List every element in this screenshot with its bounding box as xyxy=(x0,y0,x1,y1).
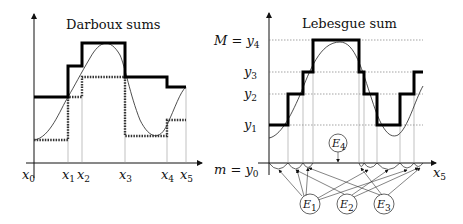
diagram-canvas: Darboux sums x0 x1 x2 x3 x4 x5 Lebesgue xyxy=(0,0,463,224)
svg-text:m = y0: m = y0 xyxy=(214,162,259,179)
svg-text:x1: x1 xyxy=(62,167,75,184)
right-y-labels: M = y4 y3 y2 y1 m = y0 x5 xyxy=(213,33,446,182)
left-x-labels: x0 x1 x2 x3 x4 x5 xyxy=(22,167,193,184)
interval-arcs xyxy=(269,163,423,170)
lebesgue-title: Lebesgue sum xyxy=(302,16,397,31)
darboux-title: Darboux sums xyxy=(66,17,160,32)
darboux-panel: Darboux sums x0 x1 x2 x3 x4 x5 xyxy=(22,14,202,184)
diagram: Darboux sums x0 x1 x2 x3 x4 x5 Lebesgue xyxy=(0,0,463,224)
svg-text:M = y4: M = y4 xyxy=(213,33,260,50)
right-guides xyxy=(288,40,414,163)
svg-text:x0: x0 xyxy=(22,167,35,184)
function-curve xyxy=(34,43,186,140)
svg-text:y2: y2 xyxy=(243,86,257,103)
lower-darboux-sum xyxy=(34,77,186,140)
svg-text:x4: x4 xyxy=(161,167,174,184)
svg-text:x5: x5 xyxy=(433,165,446,182)
set-arrows xyxy=(279,152,420,200)
upper-darboux-sum xyxy=(34,43,186,97)
lebesgue-panel: Lebesgue sum xyxy=(213,13,446,214)
svg-text:y1: y1 xyxy=(243,117,257,134)
left-guides xyxy=(68,77,186,163)
svg-text:y3: y3 xyxy=(243,64,257,81)
svg-text:x3: x3 xyxy=(119,167,132,184)
svg-text:x5: x5 xyxy=(180,167,193,184)
svg-text:x2: x2 xyxy=(77,167,90,184)
